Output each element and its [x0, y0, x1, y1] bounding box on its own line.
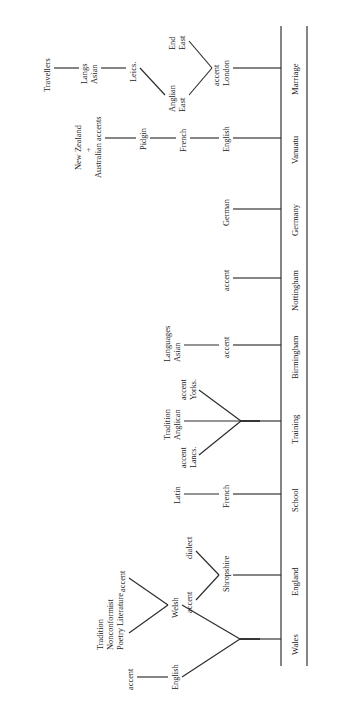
stage-label-training: Training [290, 414, 300, 444]
stage-label-nottingham: Nottingham [290, 270, 300, 311]
axis-ticks [260, 68, 281, 639]
stage-label-school: School [290, 488, 300, 512]
label-yorks-line1: Yorks. [189, 379, 198, 400]
label-french-vanuatu: French [179, 128, 188, 152]
label-australian-accents: Australian accents [94, 116, 103, 178]
label-asian-langs-line1: Asian [90, 64, 99, 84]
label-shropshire: Shropshire [222, 555, 231, 592]
label-asian-languages-line1: Asian [173, 342, 182, 362]
label-english-vanuatu: English [222, 126, 231, 152]
label-lancs-line2: accent [179, 447, 188, 468]
label-english-wales: English [171, 664, 180, 690]
branch-england: Shropshire dialect accent [185, 536, 260, 613]
stage-label-birmingham: Birmingham [290, 335, 300, 379]
welsh-to-poetry [129, 605, 168, 633]
label-pidgin: Pidgin [139, 127, 148, 150]
diagram-canvas: Wales England School Training Birmingham… [0, 0, 344, 720]
label-french-school: French [222, 484, 231, 508]
label-poetry-line2: Nonconformist [106, 599, 115, 650]
training-to-lancs [199, 421, 241, 455]
stage-label-england: England [290, 567, 300, 596]
label-anglican-line2: Tradition [163, 408, 172, 440]
label-accent-english: accent [126, 668, 135, 690]
label-accent-shropshire: accent [185, 591, 194, 613]
east-anglian-to-leics [140, 68, 165, 95]
label-east-end-line2: End [168, 36, 177, 50]
branch-school: French Latin [173, 484, 260, 508]
rotated-tree-diagram: Wales England School Training Birmingham… [0, 0, 344, 720]
label-accent-birmingham: accent [222, 336, 231, 358]
branch-wales: Welsh English accent accent Poetry Liter… [96, 570, 260, 690]
label-german: German [222, 198, 231, 226]
label-london-line2: accent [212, 64, 221, 86]
branch-vanuatu: English French Pidgin Australian accents… [74, 116, 260, 178]
label-poetry-line1: Poetry Literature [116, 593, 125, 650]
branch-training: Yorks. accent Lancs. accent Anglican Tra… [163, 379, 260, 468]
label-leics: Leics. [129, 62, 138, 82]
stage-label-marriage: Marriage [290, 63, 300, 95]
london-to-east-end [189, 41, 212, 68]
label-asian-languages-line2: Languages [163, 326, 172, 362]
branch-germany: German [222, 198, 260, 226]
label-travellers: Travellers [43, 58, 52, 92]
label-lancs-line1: Lancs. [189, 447, 198, 468]
branch-birmingham: accent Asian Languages [163, 326, 260, 362]
label-london-line1: London [222, 59, 231, 86]
label-yorks-line2: accent [179, 379, 188, 400]
training-to-yorks [199, 390, 241, 421]
branch-nottingham: accent [222, 269, 260, 291]
stage-label-vanuatu: Vanuatu [290, 135, 300, 164]
shropshire-to-accent [196, 575, 219, 600]
label-accent-welsh: accent [118, 570, 127, 592]
wales-to-english [182, 639, 240, 677]
branch-marriage: London accent East End East Anglian Leic… [43, 35, 260, 112]
label-dialect: dialect [185, 536, 194, 559]
label-east-end-line1: East [178, 35, 187, 50]
welsh-to-accent [129, 578, 168, 605]
stage-label-wales: Wales [290, 634, 300, 655]
london-to-east-anglian [189, 68, 212, 95]
stage-label-germany: Germany [290, 203, 300, 236]
stage-labels: Wales England School Training Birmingham… [290, 63, 300, 655]
label-poetry-line3: Tradition [96, 618, 105, 650]
label-welsh: Welsh [171, 596, 180, 618]
label-plus: + [84, 147, 93, 152]
label-east-anglian-line2: Anglian [168, 84, 177, 112]
label-east-anglian-line1: East [178, 97, 187, 112]
label-accent-nottingham: accent [222, 269, 231, 291]
label-anglican-line1: Anglican [173, 408, 182, 440]
label-asian-langs-line2: Langs [80, 64, 89, 84]
label-new-zealand: New Zealand [74, 124, 83, 170]
shropshire-to-dialect [196, 551, 219, 575]
label-latin: Latin [173, 486, 182, 504]
